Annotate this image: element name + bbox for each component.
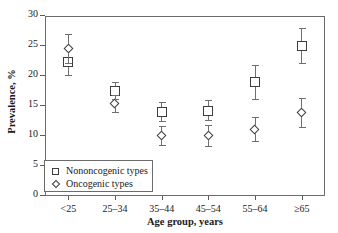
- y-axis-tick-label: 15: [28, 98, 38, 109]
- y-axis-title: Prevalence, %: [6, 42, 17, 162]
- tick-mark: [40, 75, 45, 76]
- error-bar-cap: [112, 112, 119, 113]
- square-marker-icon: [157, 107, 167, 117]
- tick-mark: [40, 135, 45, 136]
- square-marker-icon: [250, 77, 260, 87]
- chart-figure: Prevalence, % 051015202530 <2525–3435–44…: [0, 0, 338, 233]
- chart-legend: Nononcogenic types Oncogenic types: [44, 160, 153, 192]
- error-bar-cap: [252, 117, 259, 118]
- error-bar-cap: [299, 63, 306, 64]
- tick-mark: [255, 196, 256, 200]
- square-marker-icon: [203, 106, 213, 116]
- error-bar-cap: [252, 65, 259, 66]
- error-bar-cap: [65, 34, 72, 35]
- error-bar-cap: [205, 125, 212, 126]
- tick-mark: [40, 15, 45, 16]
- diamond-marker-icon: [50, 178, 62, 190]
- y-axis-tick-label: 20: [28, 68, 38, 79]
- tick-mark: [40, 195, 45, 196]
- legend-item-oncogenic[interactable]: Oncogenic types: [50, 177, 147, 190]
- error-bar-cap: [159, 126, 166, 127]
- square-marker-icon: [50, 165, 62, 177]
- error-bar-cap: [252, 141, 259, 142]
- y-axis-tick-label: 5: [33, 158, 38, 169]
- error-bar-cap: [299, 98, 306, 99]
- tick-mark: [208, 196, 209, 200]
- x-axis-tick-label: ≥65: [272, 203, 332, 214]
- tick-mark: [40, 45, 45, 46]
- x-axis-title: Age group, years: [45, 216, 325, 227]
- legend-label: Oncogenic types: [66, 178, 133, 189]
- error-bar-cap: [159, 145, 166, 146]
- error-bar-cap: [112, 95, 119, 96]
- tick-mark: [68, 196, 69, 200]
- legend-label: Nononcogenic types: [66, 165, 148, 176]
- diamond-marker-icon: [250, 124, 260, 134]
- y-axis-tick-label: 30: [28, 8, 38, 19]
- tick-mark: [162, 196, 163, 200]
- error-bar-cap: [205, 120, 212, 121]
- error-bar-cap: [205, 100, 212, 101]
- diamond-marker-icon: [63, 44, 73, 54]
- diamond-marker-icon: [110, 99, 120, 109]
- error-bar-cap: [112, 82, 119, 83]
- y-axis-tick-label: 0: [33, 188, 38, 199]
- diamond-marker-icon: [297, 108, 307, 118]
- y-axis-tick-label: 25: [28, 38, 38, 49]
- tick-mark: [302, 196, 303, 200]
- diamond-marker-icon: [203, 131, 213, 141]
- legend-item-nononcogenic[interactable]: Nononcogenic types: [50, 164, 147, 177]
- error-bar-cap: [299, 28, 306, 29]
- error-bar-cap: [299, 127, 306, 128]
- error-bar-cap: [65, 63, 72, 64]
- error-bar-cap: [159, 121, 166, 122]
- error-bar-cap: [65, 75, 72, 76]
- diamond-marker-icon: [157, 130, 167, 140]
- y-axis-tick-label: 10: [28, 128, 38, 139]
- tick-mark: [115, 196, 116, 200]
- square-marker-icon: [297, 41, 307, 51]
- error-bar-cap: [252, 99, 259, 100]
- error-bar-cap: [159, 102, 166, 103]
- error-bar-cap: [205, 146, 212, 147]
- tick-mark: [40, 105, 45, 106]
